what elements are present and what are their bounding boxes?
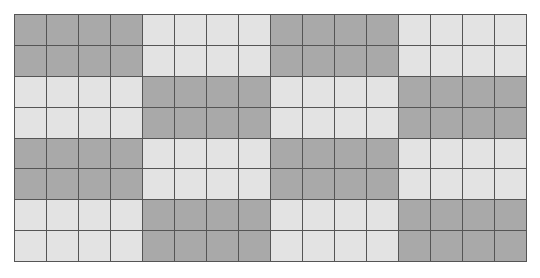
grid-cell-light: [367, 108, 398, 138]
grid-cell-light: [111, 231, 142, 261]
grid-cell-dark: [79, 15, 110, 45]
grid-cell-light: [495, 46, 526, 76]
grid-cell-light: [431, 15, 462, 45]
grid-cell-light: [143, 15, 174, 45]
grid-cell-light: [463, 169, 494, 199]
grid-cell-light: [431, 139, 462, 169]
grid-cell-light: [399, 15, 430, 45]
grid-cell-dark: [303, 46, 334, 76]
grid-cell-dark: [207, 108, 238, 138]
grid-cell-light: [367, 77, 398, 107]
grid-cell-dark: [335, 169, 366, 199]
grid-cell-dark: [463, 231, 494, 261]
grid-cell-dark: [431, 200, 462, 230]
grid-cell-light: [399, 46, 430, 76]
grid-cell-dark: [47, 139, 78, 169]
grid-cell-light: [175, 15, 206, 45]
grid-cell-light: [143, 169, 174, 199]
grid-cell-dark: [367, 169, 398, 199]
grid-cell-light: [47, 200, 78, 230]
grid-cell-light: [79, 108, 110, 138]
grid-cell-light: [175, 139, 206, 169]
grid-cell-light: [303, 108, 334, 138]
grid-cell-light: [47, 108, 78, 138]
grid-cell-light: [399, 169, 430, 199]
checkerboard-grid: [14, 14, 527, 262]
grid-cell-light: [431, 46, 462, 76]
grid-cell-dark: [431, 231, 462, 261]
grid-cell-light: [207, 139, 238, 169]
grid-cell-dark: [15, 15, 46, 45]
grid-cell-dark: [143, 200, 174, 230]
grid-cell-dark: [175, 231, 206, 261]
grid-cell-light: [15, 231, 46, 261]
grid-cell-light: [271, 108, 302, 138]
grid-cell-dark: [495, 77, 526, 107]
grid-cell-dark: [207, 231, 238, 261]
grid-cell-dark: [399, 231, 430, 261]
grid-cell-light: [239, 169, 270, 199]
grid-cell-dark: [399, 200, 430, 230]
grid-cell-dark: [431, 108, 462, 138]
grid-cell-light: [271, 200, 302, 230]
grid-cell-dark: [111, 15, 142, 45]
grid-cell-dark: [47, 15, 78, 45]
grid-cell-dark: [367, 139, 398, 169]
grid-cell-light: [175, 169, 206, 199]
grid-cell-dark: [143, 231, 174, 261]
grid-cell-light: [495, 169, 526, 199]
grid-cell-dark: [271, 15, 302, 45]
grid-cell-light: [335, 200, 366, 230]
grid-cell-dark: [175, 77, 206, 107]
grid-cell-dark: [111, 139, 142, 169]
grid-cell-dark: [495, 200, 526, 230]
grid-cell-light: [495, 15, 526, 45]
grid-cell-light: [47, 77, 78, 107]
grid-cell-dark: [335, 46, 366, 76]
grid-cell-light: [303, 77, 334, 107]
grid-cell-dark: [79, 139, 110, 169]
grid-cell-light: [271, 231, 302, 261]
grid-cell-light: [239, 139, 270, 169]
grid-cell-light: [239, 15, 270, 45]
grid-cell-dark: [367, 46, 398, 76]
grid-cell-light: [111, 108, 142, 138]
grid-cell-light: [79, 231, 110, 261]
grid-cell-light: [463, 15, 494, 45]
grid-cell-light: [367, 200, 398, 230]
grid-cell-light: [207, 46, 238, 76]
grid-cell-light: [335, 231, 366, 261]
grid-cell-light: [15, 77, 46, 107]
grid-cell-dark: [463, 108, 494, 138]
grid-cell-dark: [47, 169, 78, 199]
grid-cell-light: [207, 15, 238, 45]
grid-cell-light: [399, 139, 430, 169]
grid-cell-light: [15, 108, 46, 138]
grid-cell-light: [239, 46, 270, 76]
grid-cell-dark: [111, 169, 142, 199]
grid-cell-dark: [239, 200, 270, 230]
grid-cell-dark: [207, 77, 238, 107]
grid-cell-light: [15, 200, 46, 230]
grid-cell-dark: [335, 15, 366, 45]
grid-cell-dark: [399, 108, 430, 138]
grid-cell-dark: [239, 231, 270, 261]
grid-cell-light: [367, 231, 398, 261]
grid-cell-dark: [335, 139, 366, 169]
grid-cell-dark: [431, 77, 462, 107]
grid-cell-dark: [271, 169, 302, 199]
grid-cell-light: [271, 77, 302, 107]
grid-cell-dark: [111, 46, 142, 76]
grid-cell-dark: [495, 231, 526, 261]
grid-cell-light: [175, 46, 206, 76]
grid-cell-light: [303, 231, 334, 261]
grid-cell-dark: [79, 46, 110, 76]
grid-cell-dark: [15, 169, 46, 199]
grid-cell-dark: [175, 200, 206, 230]
grid-cell-dark: [463, 200, 494, 230]
grid-cell-dark: [399, 77, 430, 107]
grid-cell-dark: [143, 108, 174, 138]
grid-cell-light: [143, 139, 174, 169]
grid-cell-light: [143, 46, 174, 76]
grid-cell-dark: [79, 169, 110, 199]
